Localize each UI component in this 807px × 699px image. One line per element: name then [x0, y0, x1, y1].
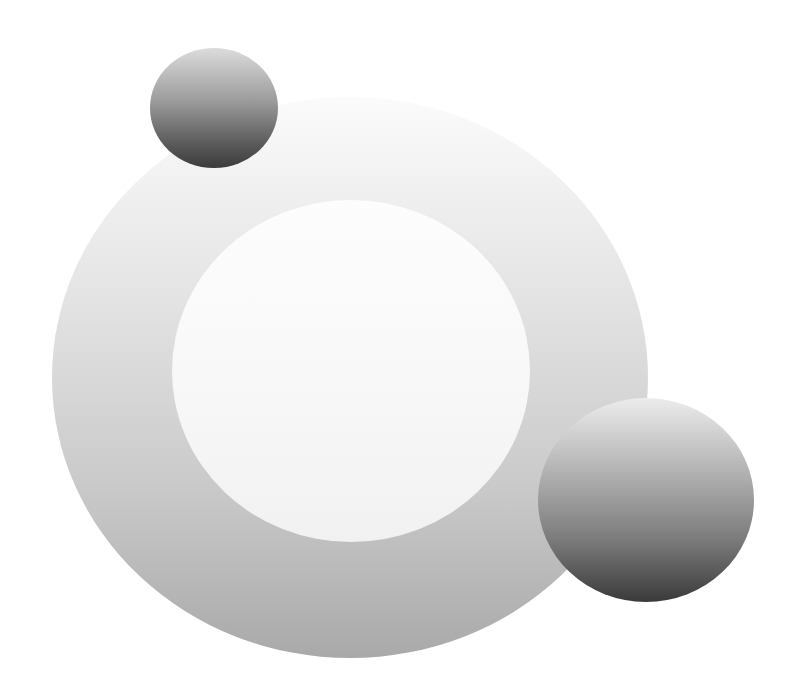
large-sphere — [538, 398, 754, 602]
illustration-description: Abstract composition: large grey ring wi… — [0, 0, 1, 1]
small-sphere — [150, 48, 278, 168]
illustration-canvas: Abstract composition: large grey ring wi… — [0, 0, 807, 699]
ring-hole — [172, 200, 530, 542]
